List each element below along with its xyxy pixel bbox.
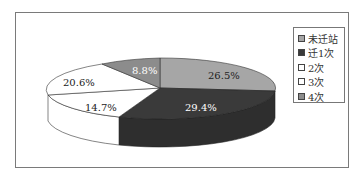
legend-item-migrated-once: 迁1次 [298,46,344,61]
legend-swatch [298,93,305,100]
legend-swatch [298,78,305,85]
legend-label: 未迁站 [308,31,338,46]
label-three: 20.6% [63,77,95,88]
label-not-migrated: 26.5% [208,70,240,81]
legend-item-not-migrated: 未迁站 [298,31,344,46]
legend-swatch [298,35,305,42]
legend-swatch [298,64,305,71]
label-migrated-once: 29.4% [185,102,217,113]
label-four: 8.8% [132,65,157,76]
legend-label: 4次 [308,89,324,104]
legend-label: 3次 [308,74,324,89]
legend-item-four: 4次 [298,89,344,104]
chart-legend: 未迁站 迁1次 2次 3次 4次 [293,27,345,103]
legend-item-two: 2次 [298,60,344,75]
legend-label: 2次 [308,60,324,75]
label-two: 14.7% [85,102,117,113]
legend-swatch [298,49,305,56]
legend-item-three: 3次 [298,75,344,90]
legend-label: 迁1次 [308,45,334,60]
